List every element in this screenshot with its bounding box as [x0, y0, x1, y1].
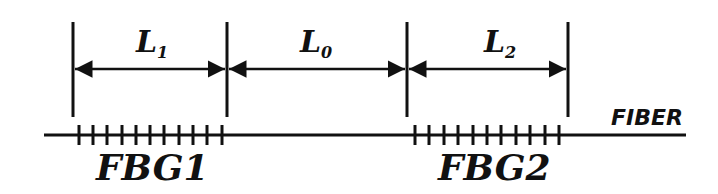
- diagram-canvas: L1 L0 L2 FIBER FBG1 FBG2: [0, 0, 718, 194]
- fbg2-label: FBG2: [437, 146, 550, 188]
- label-l1: L1: [135, 24, 168, 62]
- fiber-label: FIBER: [611, 105, 683, 130]
- fbg-diagram: L1 L0 L2 FIBER FBG1 FBG2: [0, 0, 718, 194]
- label-l2: L2: [483, 24, 516, 62]
- fbg1-label: FBG1: [95, 146, 208, 188]
- label-l0: L0: [299, 24, 332, 62]
